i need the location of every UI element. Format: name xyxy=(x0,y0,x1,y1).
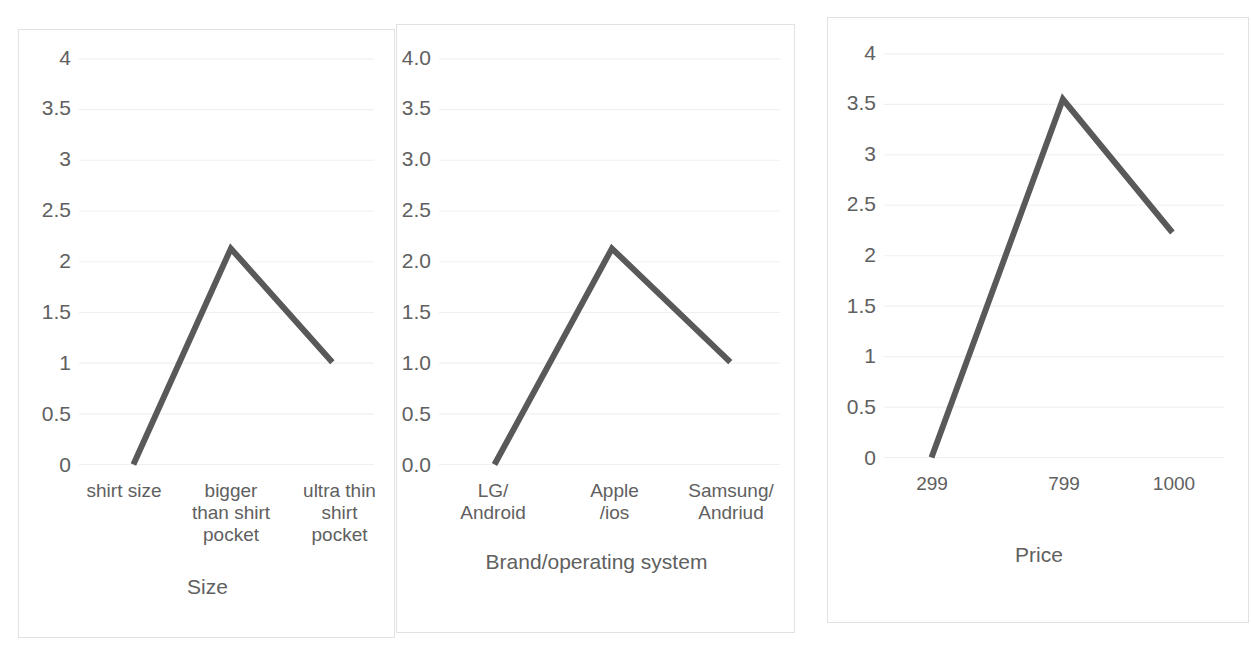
x-axis-tick-label-line: 1000 xyxy=(1114,473,1234,495)
x-axis-tick-label: Samsung/Andriud xyxy=(667,480,795,524)
y-axis-tick-label: 0.5 xyxy=(19,403,71,424)
x-axis-tick-label-line: Samsung/ xyxy=(667,480,795,502)
x-axis-tick-label-line: /ios xyxy=(547,502,682,524)
chart-panel-size: 00.511.522.533.54 shirt sizebiggerthan s… xyxy=(18,29,395,638)
y-axis-tick-label: 2 xyxy=(828,244,876,265)
x-axis-tick-label: Apple/ios xyxy=(547,480,682,524)
y-axis-tick-label: 2 xyxy=(19,250,71,271)
x-axis-tick-label: biggerthan shirtpocket xyxy=(171,480,291,546)
y-axis-tick-label: 4.0 xyxy=(397,47,431,68)
data-series-line xyxy=(932,99,1173,457)
y-axis-tick-label: 2.5 xyxy=(19,199,71,220)
y-axis-tick-label: 2.0 xyxy=(397,250,431,271)
x-axis-tick-label: ultra thinshirtpocket xyxy=(287,480,392,546)
x-axis-tick-label-line: Apple xyxy=(547,480,682,502)
chart-panel-price: 00.511.522.533.54 2997991000 Price xyxy=(827,17,1249,623)
y-axis-tick-label: 2.5 xyxy=(397,199,431,220)
x-axis-tick-label-line: bigger xyxy=(171,480,291,502)
y-axis-tick-label: 1.0 xyxy=(397,352,431,373)
x-axis-tick-label-line: 799 xyxy=(1004,473,1124,495)
x-axis-tick-label-line: pocket xyxy=(171,524,291,546)
x-axis-tick-label-line: Andriud xyxy=(667,502,795,524)
x-axis-tick-label-line: LG/ xyxy=(419,480,567,502)
x-axis-tick-label: 1000 xyxy=(1114,473,1234,495)
data-series-line xyxy=(133,249,332,465)
y-axis-tick-label: 0.5 xyxy=(828,396,876,417)
y-axis-tick-label: 0 xyxy=(828,447,876,468)
y-axis-tick-label: 2.5 xyxy=(828,193,876,214)
brand-os-chart-plot xyxy=(397,25,794,632)
y-axis-tick-label: 3.5 xyxy=(828,92,876,113)
x-axis-tick-label: 299 xyxy=(872,473,992,495)
x-axis-tick-label-line: than shirt xyxy=(171,502,291,524)
chart-panel-brand-os: 0.00.51.01.52.02.53.03.54.0 LG/AndroidAp… xyxy=(396,24,795,633)
y-axis-tick-label: 0.5 xyxy=(397,403,431,424)
y-axis-tick-label: 1.5 xyxy=(828,295,876,316)
x-axis-tick-label-line: shirt size xyxy=(69,480,179,502)
y-axis-tick-label: 3.5 xyxy=(397,97,431,118)
y-axis-tick-label: 1 xyxy=(19,352,71,373)
size-chart-x-axis-title: Size xyxy=(19,575,396,599)
y-axis-tick-label: 4 xyxy=(828,42,876,63)
y-axis-tick-label: 1.5 xyxy=(19,301,71,322)
y-axis-tick-label: 0.0 xyxy=(397,454,431,475)
x-axis-tick-label: LG/Android xyxy=(419,480,567,524)
y-axis-tick-label: 4 xyxy=(19,47,71,68)
data-series-line xyxy=(495,249,731,465)
x-axis-tick-label-line: 299 xyxy=(872,473,992,495)
x-axis-tick-label: shirt size xyxy=(69,480,179,502)
x-axis-tick-label: 799 xyxy=(1004,473,1124,495)
y-axis-tick-label: 3 xyxy=(828,143,876,164)
y-axis-tick-label: 3.0 xyxy=(397,148,431,169)
x-axis-tick-label-line: Android xyxy=(419,502,567,524)
y-axis-tick-label: 3 xyxy=(19,148,71,169)
y-axis-tick-label: 0 xyxy=(19,454,71,475)
x-axis-tick-label-line: shirt xyxy=(287,502,392,524)
price-chart-plot xyxy=(828,18,1248,622)
price-chart-x-axis-title: Price xyxy=(828,543,1250,567)
y-axis-tick-label: 3.5 xyxy=(19,97,71,118)
y-axis-tick-label: 1.5 xyxy=(397,301,431,322)
x-axis-tick-label-line: pocket xyxy=(287,524,392,546)
x-axis-tick-label-line: ultra thin xyxy=(287,480,392,502)
brand-os-chart-x-axis-title: Brand/operating system xyxy=(397,550,796,574)
y-axis-tick-label: 1 xyxy=(828,345,876,366)
